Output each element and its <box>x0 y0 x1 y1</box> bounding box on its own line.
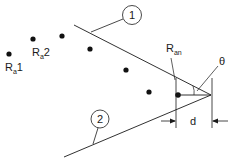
dimension-arrow-left-head <box>170 119 176 124</box>
callout-2-leader <box>93 128 98 144</box>
theta-arc <box>193 86 194 95</box>
callout-2-label: 2 <box>97 113 103 125</box>
theta-label: θ <box>219 55 225 67</box>
callout-1-leader <box>91 19 123 32</box>
label-ra2: Ra2 <box>32 46 50 60</box>
point-ra1 <box>6 51 11 56</box>
point-6 <box>146 89 151 94</box>
callout-1-label: 1 <box>129 9 135 21</box>
ran-leader <box>171 58 175 80</box>
boundary-line-2 <box>64 95 211 157</box>
theta-leader <box>197 66 218 91</box>
boundary-line-1 <box>74 25 211 95</box>
dimension-arrow-right-head <box>212 119 218 124</box>
callout-1: 1 <box>91 6 142 33</box>
point-3 <box>59 33 64 38</box>
point-ra2 <box>30 36 35 41</box>
dimension-label-d: d <box>190 115 196 127</box>
label-ra1: Ra1 <box>5 61 23 75</box>
point-5 <box>123 67 128 72</box>
point-4 <box>87 46 92 51</box>
label-ran: Ran <box>166 42 182 56</box>
wedge-diagram: 1 2 Ra1 Ra2 Ran θ d <box>0 0 234 163</box>
